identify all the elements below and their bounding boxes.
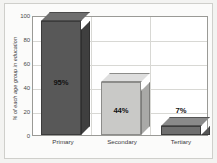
bar-top-face xyxy=(101,73,141,82)
bar-side-fill xyxy=(81,21,90,135)
y-axis-tick-labels: 100 80 60 40 20 0 xyxy=(14,16,30,136)
bar-tertiary[interactable]: 7% xyxy=(161,126,201,135)
bar-secondary[interactable]: 44% xyxy=(101,82,141,135)
x-tick-label-tertiary: Tertiary xyxy=(154,138,208,145)
plot-area: 95% 44% 7% xyxy=(32,16,208,136)
y-tick-label: 100 xyxy=(20,13,30,19)
y-tick-label: 0 xyxy=(27,133,30,139)
bar-top-fill xyxy=(41,12,90,21)
bar-primary[interactable]: 95% xyxy=(41,21,81,135)
x-axis-tick-labels: Primary Secondary Tertiary xyxy=(32,138,208,150)
y-tick-label: 60 xyxy=(24,61,30,67)
y-tick-label: 80 xyxy=(24,37,30,43)
bar-side-face xyxy=(201,126,210,135)
bar-top-fill xyxy=(161,117,210,126)
bar-side-fill xyxy=(201,126,210,135)
chart-figure: % of each age group in education 100 80 … xyxy=(0,0,217,163)
bar-top-fill xyxy=(101,73,150,82)
bar-value-label: 95% xyxy=(41,78,81,87)
bar-top-face xyxy=(161,117,201,126)
bar-side-fill xyxy=(141,82,150,135)
bar-side-face xyxy=(141,82,150,135)
gridline-vertical xyxy=(150,17,151,135)
bar-front-face xyxy=(161,126,201,135)
bar-value-label: 7% xyxy=(161,106,201,115)
bar-side-face xyxy=(81,21,90,135)
bar-value-label: 44% xyxy=(101,106,141,115)
x-tick-label-primary: Primary xyxy=(36,138,90,145)
gridline-vertical xyxy=(91,17,92,135)
y-tick-label: 40 xyxy=(24,85,30,91)
bar-top-face xyxy=(41,12,81,21)
y-tick-label: 20 xyxy=(24,109,30,115)
x-tick-label-secondary: Secondary xyxy=(95,138,149,145)
